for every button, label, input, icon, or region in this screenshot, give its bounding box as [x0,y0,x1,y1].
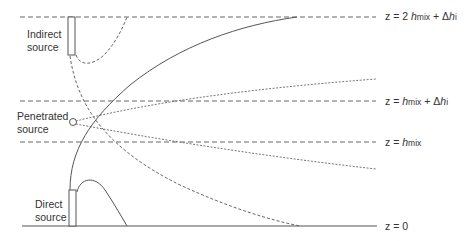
indirect-plume-lower [70,56,300,226]
eq-ground: z = 0 [385,220,408,232]
penetrated-source-label: Penetrated source [17,110,68,136]
indirect-source-label-line1: Indirect [27,28,61,41]
penetrated-source-label-line2: source [17,123,68,136]
dispersion-diagram [0,0,472,241]
eq-sub: mix [408,138,421,148]
eq-plus: + Δ [430,10,449,22]
direct-source-label-line2: source [35,211,67,224]
indirect-source-label-line2: source [27,41,61,54]
indirect-source-label: Indirect source [27,28,61,54]
eq-prefix: z = [385,95,402,107]
indirect-source-stack [68,17,75,55]
eq-sub2: i [455,12,457,22]
eq-sub: mix [408,97,421,107]
level-label-hmix-dh: z = hmix + Δhi [385,95,448,107]
penetrated-source-point [70,119,77,126]
penetrated-plume-upper [76,79,376,121]
eq-plus: + Δ [421,95,440,107]
penetrated-source-label-line1: Penetrated [17,110,68,123]
direct-source-label: Direct source [35,198,67,224]
eq-prefix: z = 2 [385,10,411,22]
level-label-2hmix: z = 2 hmix + Δhi [385,10,457,22]
level-label-hmix: z = hmix [385,136,421,148]
eq-sub: mix [417,12,430,22]
eq-prefix: z = [385,136,402,148]
direct-source-label-line1: Direct [35,198,67,211]
direct-source-stack [69,190,76,226]
indirect-plume-upper [76,17,127,63]
eq-sub2: i [446,97,448,107]
direct-plume-rising [70,17,297,190]
level-label-ground: z = 0 [385,220,408,232]
direct-plume-ground [77,180,127,226]
